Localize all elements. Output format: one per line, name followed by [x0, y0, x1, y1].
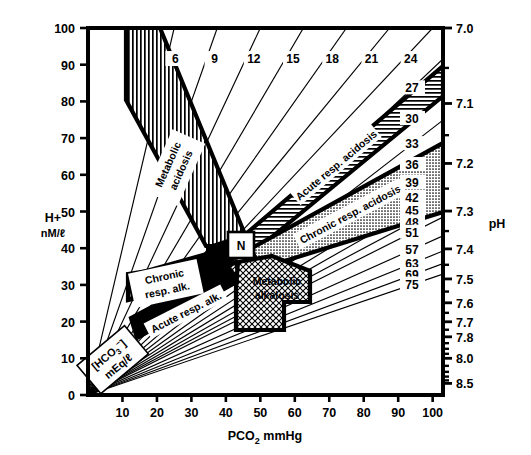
y-tick-label-50: 50 [61, 206, 75, 220]
x-tick-label-20: 20 [150, 406, 164, 420]
y-tick-label-100: 100 [54, 22, 75, 36]
y-axis-label: H+ [45, 211, 61, 225]
ph-tick-label-7.1: 7.1 [456, 97, 473, 111]
acid-base-nomogram-svg: N Metabolic acidosis Acute resp. acidosi… [0, 0, 531, 455]
y-tick-label-70: 70 [61, 132, 75, 146]
y-tick-label-20: 20 [61, 316, 75, 330]
svg-text:21: 21 [365, 52, 379, 66]
y-axis-unit: nM/ℓ [41, 227, 65, 239]
x-tick-label-80: 80 [357, 406, 371, 420]
svg-text:24: 24 [404, 52, 418, 66]
isopleth-label-15: 15 [283, 51, 304, 66]
x-tick-label-40: 40 [219, 406, 233, 420]
y-tick-label-10: 10 [61, 352, 75, 366]
ph-axis-label: pH [489, 217, 506, 231]
isopleth-label-6: 6 [165, 51, 186, 66]
ph-tick-label-8.0: 8.0 [456, 352, 473, 366]
ph-tick-label-7.4: 7.4 [456, 243, 473, 257]
isopleth-label-36: 36 [400, 157, 425, 172]
isopleth-label-24: 24 [401, 51, 422, 66]
svg-text:18: 18 [326, 52, 340, 66]
isopleth-label-42: 42 [400, 190, 425, 205]
isopleth-label-39: 39 [400, 175, 425, 190]
svg-text:42: 42 [405, 191, 419, 205]
ph-tick-label-7.7: 7.7 [456, 316, 473, 330]
y-tick-label-0: 0 [68, 389, 75, 403]
nomogram-figure: N Metabolic acidosis Acute resp. acidosi… [0, 0, 531, 455]
svg-text:12: 12 [247, 52, 261, 66]
x-tick-label-70: 70 [322, 406, 336, 420]
isopleth-label-21: 21 [361, 51, 382, 66]
ph-tick-label-7.5: 7.5 [456, 273, 473, 287]
y-tick-label-30: 30 [61, 279, 75, 293]
svg-text:57: 57 [405, 243, 419, 257]
ph-tick-label-7.0: 7.0 [456, 22, 473, 36]
isopleth-label-75: 75 [400, 277, 425, 292]
y-tick-label-40: 40 [61, 242, 75, 256]
ph-tick-label-7.2: 7.2 [456, 157, 473, 171]
isopleth-label-9: 9 [205, 51, 226, 66]
svg-text:75: 75 [405, 278, 419, 292]
x-tick-label-10: 10 [116, 406, 130, 420]
svg-text:6: 6 [172, 52, 179, 66]
svg-text:36: 36 [405, 158, 419, 172]
svg-text:30: 30 [405, 112, 419, 126]
isopleth-label-18: 18 [322, 51, 343, 66]
ph-tick-label-8.5: 8.5 [456, 377, 473, 391]
isopleth-label-33: 33 [400, 136, 425, 151]
isopleth-label-30: 30 [400, 111, 425, 126]
isopleth-label-51: 51 [400, 225, 425, 240]
ph-tick-label-7.8: 7.8 [456, 331, 473, 345]
x-tick-label-60: 60 [288, 406, 302, 420]
normal-point-marker: N [228, 232, 254, 258]
normal-point-label: N [237, 239, 246, 253]
y-tick-label-90: 90 [61, 59, 75, 73]
isopleth-label-12: 12 [244, 51, 265, 66]
svg-text:15: 15 [286, 52, 300, 66]
isopleth-label-57: 57 [400, 242, 425, 257]
x-tick-label-50: 50 [253, 406, 267, 420]
y-tick-label-60: 60 [61, 169, 75, 183]
svg-text:27: 27 [405, 81, 419, 95]
svg-text:alkalosis: alkalosis [255, 289, 300, 301]
ph-tick-label-7.6: 7.6 [456, 297, 473, 311]
x-tick-label-100: 100 [422, 406, 443, 420]
x-tick-label-30: 30 [184, 406, 198, 420]
svg-text:9: 9 [211, 52, 218, 66]
ph-tick-label-7.3: 7.3 [456, 205, 473, 219]
svg-text:39: 39 [405, 176, 419, 190]
y-tick-label-80: 80 [61, 95, 75, 109]
svg-text:51: 51 [405, 226, 419, 240]
isopleth-label-27: 27 [400, 80, 425, 95]
svg-text:33: 33 [405, 137, 419, 151]
svg-text:Metabolic: Metabolic [253, 275, 302, 287]
x-tick-label-90: 90 [391, 406, 405, 420]
